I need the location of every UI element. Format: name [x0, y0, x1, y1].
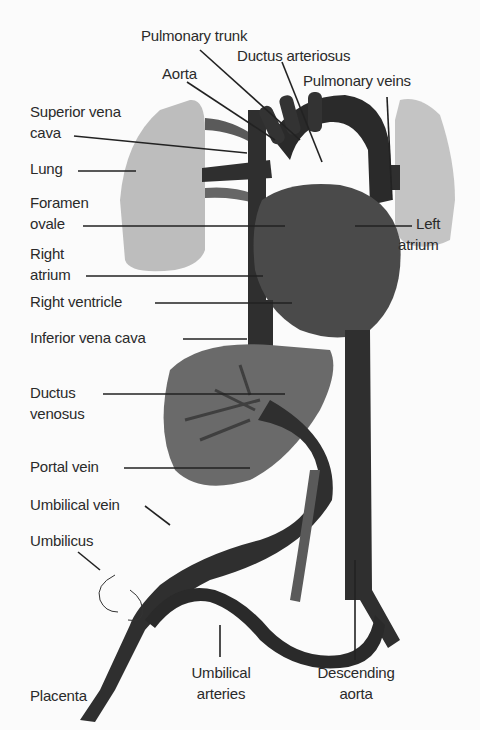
label-portal-vein: Portal vein	[30, 458, 99, 476]
label-ductus-venosus-2: venosus	[30, 405, 84, 423]
label-placenta: Placenta	[30, 687, 87, 705]
heart	[254, 184, 401, 338]
label-foramen-ovale-2: ovale	[30, 215, 65, 233]
liver	[164, 344, 334, 485]
label-aorta: Aorta	[162, 65, 197, 83]
label-umbilicus: Umbilicus	[30, 532, 93, 550]
label-descending-aorta-2: aorta	[308, 685, 404, 703]
label-umbilical-arteries-2: arteries	[183, 685, 259, 703]
label-superior-vena-cava: Superior vena	[30, 103, 121, 121]
label-lung: Lung	[30, 160, 63, 178]
label-right-atrium: Right	[30, 245, 64, 263]
label-right-ventricle: Right ventricle	[30, 293, 122, 311]
label-umbilical-arteries: Umbilical	[183, 664, 259, 682]
label-pulmonary-trunk: Pulmonary trunk	[141, 27, 247, 45]
label-superior-vena-cava-2: cava	[30, 124, 61, 142]
fetal-circulation-diagram: Pulmonary trunk Ductus arteriosus Aorta …	[0, 0, 480, 730]
right-lung	[120, 100, 205, 271]
label-pulmonary-veins: Pulmonary veins	[303, 72, 411, 90]
label-left-atrium-2: atrium	[398, 236, 438, 254]
label-left-atrium: Left	[416, 215, 440, 233]
umbilical-artery-1	[145, 588, 385, 668]
label-umbilical-vein: Umbilical vein	[30, 496, 120, 514]
label-foramen-ovale: Foramen	[30, 194, 89, 212]
label-right-atrium-2: atrium	[30, 266, 70, 284]
label-ductus-venosus: Ductus	[30, 384, 76, 402]
label-ductus-arteriosus: Ductus arteriosus	[237, 47, 350, 65]
label-inferior-vena-cava: Inferior vena cava	[30, 329, 146, 347]
label-descending-aorta: Descending	[308, 664, 404, 682]
